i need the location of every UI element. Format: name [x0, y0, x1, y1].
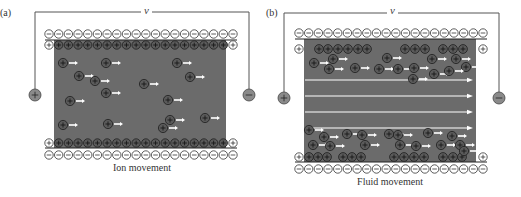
panel-a-wall-negative-charge-icon — [229, 30, 237, 38]
panel-a-mobile-ion-icon — [103, 119, 112, 128]
panel-a-adsorbed-ion-icon — [93, 41, 101, 49]
panel-b-wall-negative-charge-icon — [382, 165, 390, 173]
panel-a-wall-negative-charge-icon — [84, 30, 92, 38]
panel-a-wall-negative-charge-icon — [142, 30, 150, 38]
panel-a-wall-negative-charge-icon — [151, 151, 159, 159]
panel-a-adsorbed-ion-icon — [151, 139, 159, 147]
panel-b-wall-negative-charge-icon — [334, 29, 342, 37]
panel-b-wall-negative-charge-icon — [343, 165, 351, 173]
panel-a-channel — [54, 40, 226, 148]
panel-b-wall-negative-charge-icon — [324, 165, 332, 173]
panel-a-negative-electrode-icon — [243, 89, 255, 101]
panel-a-wall-negative-charge-icon — [161, 30, 169, 38]
electroosmosis-diagram — [0, 0, 521, 197]
panel-b-adsorbed-ion-icon — [315, 45, 324, 54]
panel-a-adsorbed-ion-icon — [209, 139, 217, 147]
panel-b-adsorbed-ion-icon — [420, 153, 429, 162]
panel-a-mobile-ion-icon — [165, 115, 174, 124]
panel-a-mobile-ion-icon — [90, 76, 99, 85]
panel-a-wall-negative-charge-icon — [64, 151, 72, 159]
panel-b-adsorbed-ion-icon — [323, 153, 332, 162]
panel-a-counter-ion-icon — [229, 41, 237, 49]
panel-a-wall-negative-charge-icon — [132, 30, 140, 38]
panel-a-adsorbed-ion-icon — [113, 139, 121, 147]
panel-b-wall-negative-charge-icon — [382, 29, 390, 37]
panel-b-mobile-ion-icon — [304, 125, 313, 134]
panel-b-wall-negative-charge-icon — [392, 165, 400, 173]
panel-b-adsorbed-ion-icon — [401, 45, 410, 54]
panel-a-wall-negative-charge-icon — [93, 30, 101, 38]
panel-a-wall-negative-charge-icon — [200, 151, 208, 159]
panel-b-adsorbed-ion-icon — [324, 45, 333, 54]
panel-a-mobile-ion-icon — [185, 72, 194, 81]
panel-b-wall-negative-charge-icon — [304, 29, 312, 37]
panel-a-adsorbed-ion-icon — [151, 41, 159, 49]
panel-a-mobile-ion-icon — [74, 71, 83, 80]
panel-b-mobile-ion-icon — [393, 64, 402, 73]
panel-a-adsorbed-ion-icon — [219, 139, 227, 147]
panel-b-wall-negative-charge-icon — [372, 165, 380, 173]
panel-a-wall-negative-charge-icon — [142, 151, 150, 159]
panel-b-wall-negative-charge-icon — [401, 165, 409, 173]
panel-a-adsorbed-ion-icon — [142, 41, 150, 49]
panel-b-wall-negative-charge-icon — [450, 29, 458, 37]
panel-b-wall-negative-charge-icon — [314, 29, 322, 37]
panel-b-adsorbed-ion-icon — [410, 153, 419, 162]
panel-a-mobile-ion-icon — [58, 120, 67, 129]
panel-a-adsorbed-ion-icon — [54, 139, 62, 147]
panel-a-adsorbed-ion-icon — [54, 41, 62, 49]
panel-b-positive-electrode-icon — [278, 92, 290, 104]
panel-a-adsorbed-ion-icon — [200, 41, 208, 49]
panel-a-wall-negative-charge-icon — [74, 151, 82, 159]
panel-a-wall-negative-charge-icon — [132, 151, 140, 159]
panel-a-wall-negative-charge-icon — [74, 30, 82, 38]
panel-b-adsorbed-ion-icon — [411, 45, 420, 54]
panel-a-wall-negative-charge-icon — [103, 151, 111, 159]
panel-a-wall-negative-charge-icon — [113, 151, 121, 159]
panel-b-adsorbed-ion-icon — [439, 45, 448, 54]
panel-b-adsorbed-ion-icon — [390, 153, 399, 162]
panel-a-adsorbed-ion-icon — [64, 41, 72, 49]
panel-b-mobile-ion-icon — [309, 58, 318, 67]
panel-a-wall-negative-charge-icon — [45, 151, 53, 159]
panel-b-negative-electrode-icon — [493, 92, 505, 104]
panel-b-adsorbed-ion-icon — [421, 45, 430, 54]
panel-a-adsorbed-ion-icon — [142, 139, 150, 147]
panel-b-wall-negative-charge-icon — [304, 165, 312, 173]
panel-a-wall-negative-charge-icon — [171, 30, 179, 38]
panel-a-wall-negative-charge-icon — [209, 151, 217, 159]
panel-a-wall-negative-charge-icon — [171, 151, 179, 159]
panel-a-mobile-ion-icon — [172, 58, 181, 67]
panel-b-wall-negative-charge-icon — [479, 165, 487, 173]
panel-a-mobile-ion-icon — [65, 96, 74, 105]
panel-a-wall-negative-charge-icon — [84, 151, 92, 159]
panel-b-mobile-ion-icon — [459, 146, 468, 155]
panel-b-wall-negative-charge-icon — [411, 165, 419, 173]
panel-b-mobile-ion-icon — [382, 53, 391, 62]
panel-b-adsorbed-ion-icon — [400, 153, 409, 162]
panel-a-counter-ion-icon — [45, 41, 53, 49]
panel-b-wall-negative-charge-icon — [314, 165, 322, 173]
panel-b-adsorbed-ion-icon — [334, 45, 343, 54]
panel-b-mobile-ion-icon — [427, 54, 436, 63]
panel-b-wall-negative-charge-icon — [295, 165, 303, 173]
panel-a-adsorbed-ion-icon — [103, 139, 111, 147]
panel-b-wall-negative-charge-icon — [479, 29, 487, 37]
panel-b-wall-negative-charge-icon — [450, 165, 458, 173]
panel-b-mobile-ion-icon — [395, 140, 404, 149]
panel-a-mobile-ion-icon — [163, 95, 172, 104]
panel-a-mobile-ion-icon — [58, 58, 67, 67]
panel-b-wall-negative-charge-icon — [411, 29, 419, 37]
panel-b-mobile-ion-icon — [360, 140, 369, 149]
panel-a-caption: Ion movement — [113, 162, 171, 173]
panel-a-wall-negative-charge-icon — [190, 30, 198, 38]
panel-b-wall-negative-charge-icon — [459, 165, 467, 173]
panel-a-adsorbed-ion-icon — [93, 139, 101, 147]
panel-b-adsorbed-ion-icon — [439, 153, 448, 162]
panel-b-wall-negative-charge-icon — [372, 29, 380, 37]
panel-b-mobile-ion-icon — [444, 66, 453, 75]
panel-a-adsorbed-ion-icon — [171, 41, 179, 49]
panel-a-adsorbed-ion-icon — [219, 41, 227, 49]
panel-b-mobile-ion-icon — [436, 140, 445, 149]
panel-a-mobile-ion-icon — [158, 123, 167, 132]
